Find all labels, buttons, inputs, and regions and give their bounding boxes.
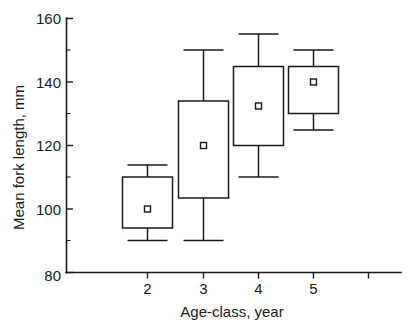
y-tick-label-160: 160	[36, 10, 61, 27]
y-tick-label-80: 80	[44, 267, 61, 284]
y-axis-title: Mean fork length, mm	[10, 85, 27, 230]
mean-marker-square	[256, 103, 262, 109]
x-tick-labels: 2 3 4 5	[143, 280, 317, 297]
box-iqr	[123, 177, 173, 228]
box-plot-chart: 160 140 120 100 80 2 3 4 5 Age-class, ye…	[0, 0, 407, 330]
box-iqr	[234, 67, 284, 146]
mean-marker-square	[311, 79, 317, 85]
box-plot-item	[179, 50, 229, 241]
y-tick-labels: 160 140 120 100 80	[36, 10, 61, 284]
y-major-ticks	[67, 19, 74, 273]
y-tick-label-140: 140	[36, 74, 61, 91]
x-tick-label-5: 5	[309, 280, 317, 297]
y-tick-label-100: 100	[36, 201, 61, 218]
box-plot-item	[234, 34, 284, 177]
x-ticks	[148, 273, 369, 279]
box-plot-item	[289, 50, 339, 130]
box-plot-item	[123, 165, 173, 241]
figure-panel: 160 140 120 100 80 2 3 4 5 Age-class, ye…	[0, 0, 407, 330]
x-tick-label-2: 2	[143, 280, 151, 297]
x-axis-title: Age-class, year	[180, 303, 283, 320]
y-tick-label-120: 120	[36, 137, 61, 154]
x-tick-label-3: 3	[199, 280, 207, 297]
x-tick-label-4: 4	[254, 280, 262, 297]
box-iqr	[179, 101, 229, 198]
box-iqr	[289, 67, 339, 114]
mean-marker-square	[201, 143, 207, 149]
mean-marker-square	[145, 206, 151, 212]
